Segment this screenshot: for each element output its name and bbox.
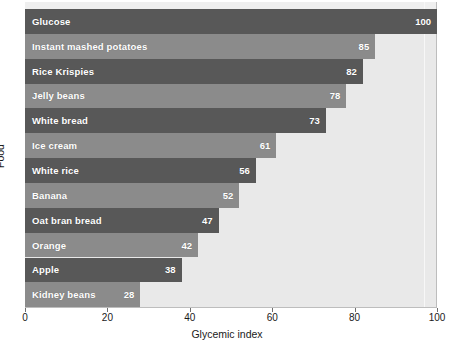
bar-row: Instant mashed potatoes85: [25, 34, 375, 59]
bar-value-label: 78: [330, 90, 347, 101]
bar-category-label: Rice Krispies: [25, 66, 94, 77]
bar-row: Banana52: [25, 183, 239, 208]
bar-value-label: 61: [260, 140, 277, 151]
bar-row: Orange42: [25, 233, 198, 258]
bar-row: Glucose100: [25, 9, 437, 34]
bar-row: White bread73: [25, 108, 326, 133]
bar-value-label: 56: [239, 165, 256, 176]
x-axis-tick-label: 20: [102, 312, 113, 323]
bar-category-label: Oat bran bread: [25, 215, 102, 226]
plot-area: Glucose100Instant mashed potatoes85Rice …: [25, 2, 437, 308]
bar-row: White rice56: [25, 158, 256, 183]
bars-layer: Glucose100Instant mashed potatoes85Rice …: [25, 9, 436, 307]
x-axis-tick-label: 60: [267, 312, 278, 323]
bar-category-label: Jelly beans: [25, 90, 85, 101]
bar-category-label: Banana: [25, 190, 67, 201]
bar-category-label: Glucose: [25, 16, 71, 27]
glycemic-index-bar-chart: Glucose100Instant mashed potatoes85Rice …: [0, 0, 454, 347]
bar-category-label: Instant mashed potatoes: [25, 41, 147, 52]
bar-value-label: 73: [309, 115, 326, 126]
y-axis-title: Food: [0, 144, 6, 168]
bar-category-label: Orange: [25, 240, 66, 251]
bar-value-label: 38: [165, 264, 182, 275]
bar-value-label: 100: [415, 16, 437, 27]
bar-row: Rice Krispies82: [25, 59, 363, 84]
bar-category-label: White bread: [25, 115, 88, 126]
bar-row: Jelly beans78: [25, 84, 346, 109]
bar-value-label: 28: [124, 289, 141, 300]
bar-value-label: 42: [181, 240, 198, 251]
bar-value-label: 82: [346, 66, 363, 77]
plot-top-strip: [25, 2, 436, 9]
bar-category-label: Apple: [25, 264, 59, 275]
x-axis-tick-label: 100: [429, 312, 446, 323]
bar-row: Apple38: [25, 258, 182, 283]
bar-row: Ice cream61: [25, 133, 276, 158]
x-axis-tick-label: 40: [184, 312, 195, 323]
bar-value-label: 47: [202, 215, 219, 226]
bar-row: Oat bran bread47: [25, 208, 219, 233]
x-axis-title: Glycemic index: [0, 328, 454, 340]
x-axis-tick-label: 0: [22, 312, 28, 323]
bar-row: Kidney beans28: [25, 282, 140, 307]
bar-category-label: Ice cream: [25, 140, 77, 151]
bar-category-label: White rice: [25, 165, 79, 176]
bar-category-label: Kidney beans: [25, 289, 96, 300]
x-axis-tick-label: 80: [349, 312, 360, 323]
bar-value-label: 52: [223, 190, 240, 201]
bar-value-label: 85: [359, 41, 376, 52]
